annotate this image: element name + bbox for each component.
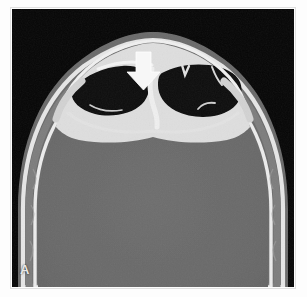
ct-noise-overlay <box>12 9 294 287</box>
ct-scan-svg <box>12 9 294 287</box>
panel-label: A <box>20 262 30 277</box>
ct-scan-image: A <box>12 9 294 287</box>
ct-figure: A <box>0 0 307 297</box>
